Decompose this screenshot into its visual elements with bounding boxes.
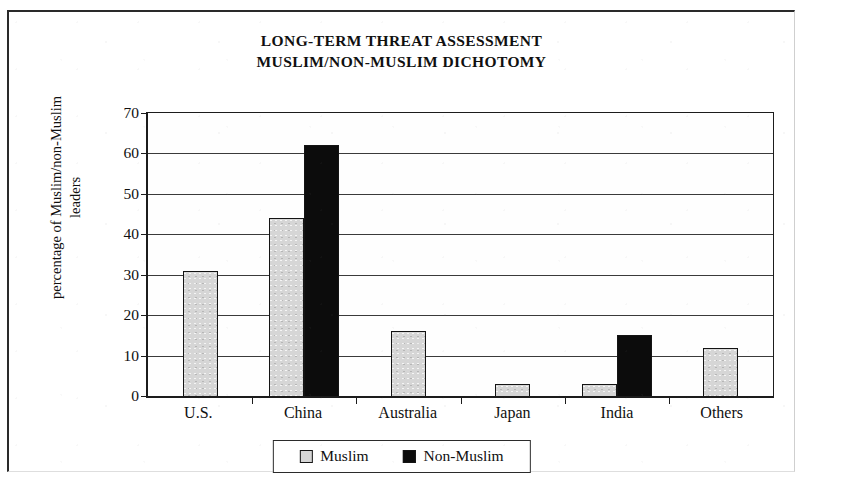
y-axis-tick-mark xyxy=(141,396,148,397)
x-axis-tick-mark xyxy=(461,396,462,404)
y-axis-tick-label: 40 xyxy=(124,226,140,242)
bar-muslim[interactable] xyxy=(269,218,304,396)
x-axis-category-label: Japan xyxy=(460,404,565,422)
y-axis-tick-mark xyxy=(141,113,148,114)
bar-group xyxy=(461,113,565,396)
x-axis-tick-mark xyxy=(356,396,357,404)
y-axis-tick-label: 60 xyxy=(124,145,140,161)
bar-group xyxy=(148,113,252,396)
chart-legend: MuslimNon-Muslim xyxy=(272,440,530,473)
bar-pair xyxy=(269,113,339,396)
bar-pair xyxy=(703,113,738,396)
y-axis-tick-label: 20 xyxy=(124,307,140,323)
bar-muslim[interactable] xyxy=(495,384,530,396)
legend-item[interactable]: Non-Muslim xyxy=(403,447,504,465)
x-axis-tick-mark xyxy=(669,396,670,404)
y-axis-tick-mark xyxy=(141,194,148,195)
y-axis-tick-mark xyxy=(141,315,148,316)
plot-area: 706050403020100 xyxy=(146,112,774,398)
bar-group xyxy=(669,113,773,396)
chart-title-line-1: LONG-TERM THREAT ASSESSMENT xyxy=(9,30,794,51)
y-axis-tick-label: 70 xyxy=(124,105,140,121)
x-axis-category-label: Australia xyxy=(355,404,460,422)
bar-muslim[interactable] xyxy=(582,384,617,396)
x-axis-category-label: U.S. xyxy=(146,404,251,422)
x-axis-category-labels: U.S.ChinaAustraliaJapanIndiaOthers xyxy=(146,404,774,422)
y-axis-tick-label: 50 xyxy=(124,186,140,202)
x-axis-category-label: Others xyxy=(669,404,774,422)
x-axis-tick-mark xyxy=(252,396,253,404)
y-axis-tick-label: 0 xyxy=(131,388,139,404)
bar-muslim[interactable] xyxy=(703,348,738,397)
x-axis-tick-mark xyxy=(565,396,566,404)
y-axis-tick-mark xyxy=(141,153,148,154)
legend-label: Non-Muslim xyxy=(424,447,504,465)
y-axis-tick-label: 30 xyxy=(124,267,140,283)
x-axis-category-label: India xyxy=(565,404,670,422)
y-axis-tick-mark xyxy=(141,275,148,276)
bar-group xyxy=(356,113,460,396)
y-axis-tick-label: 10 xyxy=(124,348,140,364)
x-axis-category-label: China xyxy=(251,404,356,422)
chart-title: LONG-TERM THREAT ASSESSMENT MUSLIM/NON-M… xyxy=(9,30,794,73)
bar-pair xyxy=(495,113,530,396)
y-axis-tick-mark xyxy=(141,234,148,235)
y-axis-title-line-1: percentage of Muslim/non-Muslim xyxy=(47,77,66,317)
plot-wrapper: 706050403020100 xyxy=(146,112,774,398)
legend-item[interactable]: Muslim xyxy=(299,447,368,465)
y-axis-title: percentage of Muslim/non-Muslim leaders xyxy=(47,77,86,317)
scanned-page-frame: LONG-TERM THREAT ASSESSMENT MUSLIM/NON-M… xyxy=(7,10,795,472)
bars-layer xyxy=(148,113,773,396)
bar-pair xyxy=(391,113,426,396)
chart-title-line-2: MUSLIM/NON-MUSLIM DICHOTOMY xyxy=(9,51,794,72)
bar-pair xyxy=(582,113,652,396)
legend-swatch-nonmuslim-icon xyxy=(403,450,416,463)
bar-nonmuslim[interactable] xyxy=(617,335,652,396)
bar-group xyxy=(565,113,669,396)
bar-group xyxy=(252,113,356,396)
bar-nonmuslim[interactable] xyxy=(304,145,339,396)
y-axis-tick-mark xyxy=(141,356,148,357)
legend-label: Muslim xyxy=(320,447,368,465)
bar-muslim[interactable] xyxy=(183,271,218,396)
bar-pair xyxy=(183,113,218,396)
bar-muslim[interactable] xyxy=(391,331,426,396)
legend-swatch-muslim-icon xyxy=(299,450,312,463)
y-axis-title-line-2: leaders xyxy=(66,77,85,317)
